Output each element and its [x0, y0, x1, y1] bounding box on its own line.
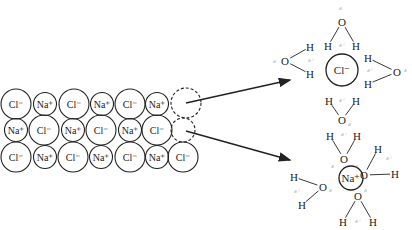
partial-positive-charge: δ⁺: [367, 68, 372, 73]
chloride-ion: Cl⁻: [115, 142, 145, 172]
central-ion-label: Cl⁻: [334, 64, 350, 76]
sodium-ion: Na⁺: [34, 146, 57, 169]
partial-positive-charge: δ⁺: [339, 43, 344, 48]
nacl-crystal-lattice: Cl⁻Na⁺Cl⁻Na⁺Cl⁻Na⁺Na⁺Cl⁻Na⁺Cl⁻Na⁺Cl⁻Cl⁻N…: [1, 89, 198, 172]
partial-positive-charge: δ⁺: [341, 132, 346, 137]
oxygen-atom: O: [338, 114, 346, 126]
partial-positive-charge: δ⁺: [386, 156, 391, 161]
partial-negative-charge: δ⁻: [273, 59, 278, 64]
partial-negative-charge: δ⁻: [348, 122, 353, 127]
hydrogen-atom: H: [391, 168, 399, 180]
partial-negative-charge: δ⁻: [331, 164, 336, 169]
hydrogen-atom: H: [306, 41, 314, 53]
hydrogen-atom: H: [325, 95, 333, 107]
partial-positive-charge: δ⁺: [339, 98, 344, 103]
ion-label: Cl⁻: [176, 152, 190, 163]
partial-negative-charge: δ⁻: [355, 164, 360, 169]
hydrogen-atom: H: [364, 52, 372, 64]
chloride-ion: Cl⁻: [86, 115, 116, 145]
partial-positive-charge: δ⁺: [355, 219, 360, 224]
central-ion-label: Na⁺: [342, 172, 361, 184]
hydrogen-atom: H: [369, 216, 377, 228]
hydrogen-atom: H: [324, 40, 332, 52]
vacancy-circle: [171, 118, 195, 142]
oxygen-atom: O: [319, 181, 327, 193]
ion-label: Na⁺: [37, 152, 54, 163]
hydrogen-atom: H: [352, 95, 360, 107]
hydrogen-atom: H: [352, 40, 360, 52]
ion-label: Cl⁻: [67, 99, 81, 110]
oxygen-atom: O: [393, 66, 401, 78]
partial-negative-charge: δ⁻: [339, 6, 344, 11]
partial-positive-charge: δ⁺: [294, 189, 299, 194]
ion-label: Na⁺: [65, 125, 82, 136]
ion-label: Cl⁻: [37, 125, 51, 136]
hydrogen-atom: H: [364, 78, 372, 90]
sodium-ion: Na⁺: [90, 146, 113, 169]
ion-label: Na⁺: [93, 152, 110, 163]
hydrogen-atom: H: [374, 143, 382, 155]
ion-label: Na⁺: [94, 99, 111, 110]
ion-label: Cl⁻: [9, 99, 23, 110]
water-molecule: OHHδ⁻δ⁺: [290, 171, 335, 211]
ion-label: Cl⁻: [150, 125, 164, 136]
sodium-ion: Na⁺: [119, 119, 142, 142]
hydrated-sodium-ion: Na⁺OHHδ⁻δ⁺OHHδ⁻δ⁺OHHδ⁻δ⁺OHHδ⁻δ⁺: [290, 130, 399, 228]
sodium-ion: Na⁺: [146, 146, 169, 169]
chloride-ion: Cl⁻: [1, 89, 31, 119]
ion-label: Cl⁻: [123, 152, 137, 163]
ion-label: Na⁺: [149, 152, 166, 163]
water-molecule: OHHδ⁻δ⁺: [364, 52, 410, 90]
sodium-ion: Na⁺: [5, 119, 28, 142]
hydrogen-atom: H: [298, 199, 306, 211]
ion-label: Na⁺: [37, 99, 54, 110]
water-molecule: OHHδ⁻δ⁺: [273, 41, 314, 80]
oxygen-atom: O: [338, 16, 346, 28]
chloride-ion: Cl⁻: [142, 115, 172, 145]
oxygen-atom: O: [281, 55, 289, 67]
dissolution-arrows: [186, 80, 290, 160]
chloride-ion: Cl⁻: [1, 142, 31, 172]
ion-label: Cl⁻: [123, 99, 137, 110]
sodium-ion: Na⁺: [91, 93, 114, 116]
nacl-dissolution-diagram: Cl⁻Na⁺Cl⁻Na⁺Cl⁻Na⁺Na⁺Cl⁻Na⁺Cl⁻Na⁺Cl⁻Cl⁻N…: [0, 0, 412, 230]
partial-negative-charge: δ⁻: [364, 188, 369, 193]
hydrogen-atom: H: [326, 130, 334, 142]
water-molecule: OHHδ⁻δ⁺: [325, 95, 360, 127]
hydrogen-atom: H: [290, 171, 298, 183]
ion-label: Na⁺: [149, 99, 166, 110]
partial-negative-charge: δ⁻: [404, 68, 409, 73]
chloride-ion: Cl⁻: [168, 142, 198, 172]
oxygen-atom: O: [360, 169, 368, 181]
chloride-ion: Cl⁻: [115, 89, 145, 119]
hydrated-chloride-ion: Cl⁻OHHδ⁻δ⁺OHHδ⁻δ⁺OHHδ⁻δ⁺OHHδ⁻δ⁺: [273, 6, 409, 127]
ion-label: Na⁺: [8, 125, 25, 136]
arrow: [186, 80, 290, 103]
chloride-ion: Cl⁻: [58, 142, 88, 172]
arrow: [186, 131, 290, 160]
sodium-ion: Na⁺: [34, 93, 57, 116]
hydrogen-atom: H: [353, 130, 361, 142]
hydrogen-atom: H: [306, 68, 314, 80]
ion-label: Cl⁻: [66, 152, 80, 163]
chloride-ion: Cl⁻: [59, 89, 89, 119]
sodium-ion: Na⁺: [62, 119, 85, 142]
water-molecule: OHHδ⁻δ⁺: [339, 188, 377, 228]
water-molecule: OHHδ⁻δ⁺: [355, 143, 399, 181]
water-molecule: OHHδ⁻δ⁺: [324, 6, 360, 52]
ion-label: Cl⁻: [94, 125, 108, 136]
ion-label: Cl⁻: [9, 152, 23, 163]
sodium-ion: Na⁺: [146, 93, 169, 116]
partial-negative-charge: δ⁻: [329, 188, 334, 193]
chloride-ion: Cl⁻: [29, 115, 59, 145]
partial-positive-charge: δ⁺: [308, 58, 313, 63]
hydrogen-atom: H: [339, 216, 347, 228]
ion-label: Na⁺: [122, 125, 139, 136]
oxygen-atom: O: [354, 190, 362, 202]
oxygen-atom: O: [340, 153, 348, 165]
